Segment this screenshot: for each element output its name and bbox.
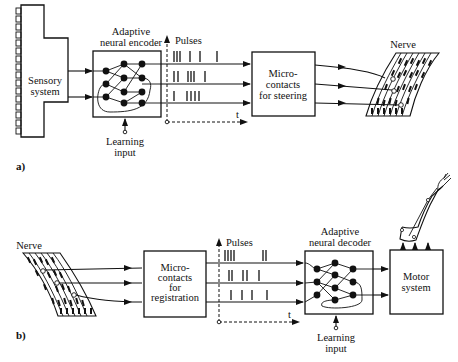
sensory-system-label-2: system [30,86,59,97]
decoder-learning-label-1: Learning [317,332,356,343]
encoder-learning-label-1: Learning [106,136,145,147]
nerve-label-b: Nerve [16,240,42,251]
nerve-label-a: Nerve [390,39,416,50]
sensory-system-block: Sensory system [16,5,68,137]
decoder-learning-label-2: input [325,343,347,354]
pulse-timing-axes-a: Pulses t [164,35,248,125]
pulse-trains-b [225,250,267,300]
motor-system-block: Motor system [390,243,443,314]
sensory-system-label-1: Sensory [28,75,63,86]
panel-b-label: b) [16,329,26,342]
microcontacts-steering-label-2: contacts [266,79,300,90]
encoder-learning-label-2: input [114,147,136,158]
nerve-illustration-b: Nerve [16,240,96,316]
motor-system-label-2: system [401,282,430,293]
prosthetic-arm-illustration [400,173,451,241]
panel-a-label: a) [16,160,26,173]
microcontacts-steering-block: Micro- contacts for steering [252,52,315,116]
neural-interface-diagram: Sensory system Adaptive neural encoder [0,0,458,362]
panel-b: Nerve [16,173,451,354]
pulse-trains-a [174,51,217,101]
pulses-label-b: Pulses [226,237,253,248]
motor-system-label-1: Motor [403,271,430,282]
microcontacts-steering-label-3: for steering [259,90,308,101]
time-label-a: t [236,109,239,120]
adaptive-neural-decoder: Adaptive neural decoder Learning input [305,226,373,354]
microcontacts-registration-block: Micro- contacts for registration [144,251,206,317]
panel-a: Sensory system Adaptive neural encoder [16,5,439,173]
encoder-title-2: neural encoder [100,37,163,48]
decoder-title-1: Adaptive [321,226,360,237]
decoder-title-2: neural decoder [309,237,372,248]
adaptive-neural-encoder: Adaptive neural encoder Learning input [93,26,163,158]
microcontacts-steering-label-1: Micro- [268,68,298,79]
encoder-title-1: Adaptive [112,26,151,37]
time-label-b: t [288,309,291,320]
microcontacts-registration-label-4: registration [151,292,200,303]
pulses-label-a: Pulses [175,35,202,46]
